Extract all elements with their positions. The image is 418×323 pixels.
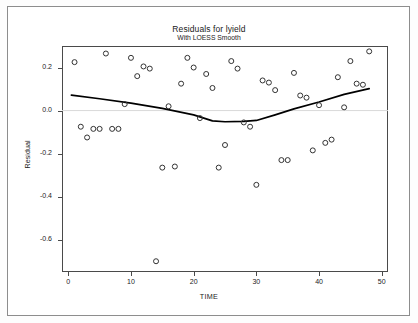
data-point xyxy=(279,158,284,163)
scatter-points-group xyxy=(72,49,372,264)
data-point xyxy=(160,165,165,170)
y-tick-label: 0.0 xyxy=(12,106,52,113)
page-root: Residuals for lyield With LOESS Smooth 0… xyxy=(0,0,418,323)
data-point xyxy=(229,59,234,64)
data-point xyxy=(304,95,309,100)
data-point xyxy=(285,158,290,163)
data-point xyxy=(147,66,152,71)
data-point xyxy=(323,140,328,145)
x-tick-label: 10 xyxy=(116,278,146,285)
y-tick-label: 0.2 xyxy=(12,63,52,70)
chart-subtitle: With LOESS Smooth xyxy=(0,34,418,41)
data-point xyxy=(273,88,278,93)
y-axis-label: Residual xyxy=(23,120,32,190)
data-point xyxy=(317,103,322,108)
data-point xyxy=(260,78,265,83)
loess-smooth-curve xyxy=(71,89,369,122)
data-point xyxy=(266,80,271,85)
chart-title: Residuals for lyield xyxy=(0,24,418,34)
data-point xyxy=(103,51,108,56)
y-tick-label: -0.2 xyxy=(12,149,52,156)
data-point xyxy=(367,49,372,54)
x-tick-label: 0 xyxy=(53,278,83,285)
y-tick-mark xyxy=(58,197,62,198)
data-point xyxy=(329,137,334,142)
data-point xyxy=(291,70,296,75)
data-point xyxy=(254,182,259,187)
x-tick-mark xyxy=(68,272,69,276)
data-point xyxy=(204,71,209,76)
data-point xyxy=(97,126,102,131)
x-tick-mark xyxy=(131,272,132,276)
x-tick-label: 40 xyxy=(304,278,334,285)
data-point xyxy=(298,93,303,98)
data-point xyxy=(191,65,196,70)
data-point xyxy=(216,165,221,170)
data-point xyxy=(141,64,146,69)
x-tick-label: 20 xyxy=(179,278,209,285)
y-tick-label: -0.6 xyxy=(12,235,52,242)
chart-figure: Residuals for lyield With LOESS Smooth 0… xyxy=(0,0,418,323)
data-point xyxy=(128,55,133,60)
data-point xyxy=(179,81,184,86)
data-point xyxy=(360,82,365,87)
data-point xyxy=(342,105,347,110)
data-point xyxy=(154,259,159,264)
data-point xyxy=(110,126,115,131)
data-point xyxy=(223,143,228,148)
data-point xyxy=(172,164,177,169)
x-tick-mark xyxy=(319,272,320,276)
x-tick-mark xyxy=(194,272,195,276)
data-point xyxy=(210,85,215,90)
data-point xyxy=(335,75,340,80)
y-tick-mark xyxy=(58,68,62,69)
data-point xyxy=(235,66,240,71)
x-axis-label: TIME xyxy=(0,292,418,301)
data-point xyxy=(354,81,359,86)
data-point xyxy=(85,135,90,140)
data-point xyxy=(116,126,121,131)
data-point xyxy=(185,55,190,60)
data-point xyxy=(310,148,315,153)
data-point xyxy=(166,104,171,109)
plot-canvas xyxy=(62,46,388,272)
x-tick-mark xyxy=(382,272,383,276)
data-point xyxy=(135,74,140,79)
y-tick-mark xyxy=(58,240,62,241)
y-tick-mark xyxy=(58,111,62,112)
y-tick-label: -0.4 xyxy=(12,192,52,199)
data-point xyxy=(78,124,83,129)
data-point xyxy=(91,126,96,131)
data-point xyxy=(348,59,353,64)
data-point xyxy=(248,124,253,129)
x-tick-label: 30 xyxy=(241,278,271,285)
y-tick-mark xyxy=(58,154,62,155)
x-tick-label: 50 xyxy=(367,278,397,285)
data-point xyxy=(72,60,77,65)
x-tick-mark xyxy=(256,272,257,276)
